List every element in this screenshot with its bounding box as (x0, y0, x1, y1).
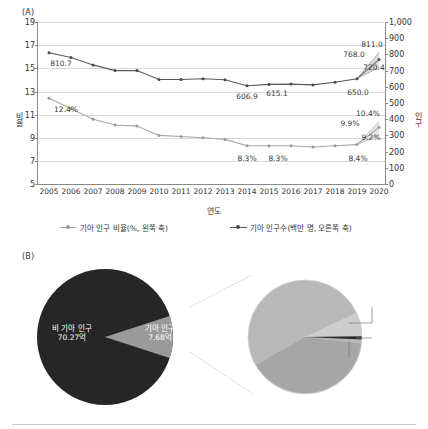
xtick-label: 2005 (39, 187, 58, 196)
xtick-label: 2012 (193, 187, 212, 196)
explosion-connector-top (190, 275, 252, 307)
legend-line-icon-ratio (60, 227, 77, 228)
data-label-count-2020-low: 720.4 (363, 63, 384, 72)
data-label-ratio-2020-mid: 9.9% (340, 119, 359, 128)
xtick-label: 2010 (149, 187, 168, 196)
explosion-connector-bottom (190, 352, 252, 393)
xtick-label: 2013 (215, 187, 234, 196)
panel-b-pie-charts: (B) 비 기아 인구 70.27억 기아 인구 7.68억 아시아 (0, 245, 428, 429)
ytick-left-label: 7 (30, 157, 35, 166)
ytick-left-label: 11 (25, 110, 35, 119)
ytick-right-label: 100 (389, 163, 404, 172)
xtick-label: 2017 (303, 187, 322, 196)
ytick-right-label: 800 (389, 50, 404, 59)
xtick-label: 2006 (61, 187, 80, 196)
data-label-count-2015: 615.1 (266, 89, 287, 98)
xtick-label: 2011 (171, 187, 190, 196)
data-label-ratio-2015: 8.3% (268, 154, 287, 163)
data-label-count-2005: 810.7 (50, 59, 71, 68)
ratio-series-line (49, 98, 379, 147)
x-axis-title: 연도 (0, 205, 428, 216)
xtick-label: 2014 (237, 187, 256, 196)
count-series-line (49, 53, 379, 86)
data-label-ratio-2020-low: 9.2% (361, 133, 380, 142)
ytick-right-label: 400 (389, 115, 404, 124)
data-label-count-2020-high: 811.0 (361, 40, 382, 49)
left-pie-label-hunger: 기아 인구 7.68억 (145, 324, 175, 343)
ytick-left-label: 9 (30, 134, 35, 143)
legend-label-count: 기아 인구수(백만 명, 오른쪽 축) (250, 222, 352, 233)
legend-label-ratio: 기아 인구 비율(%, 왼쪽 축) (80, 222, 168, 233)
ratio-series-markers (48, 97, 381, 149)
xtick-label: 2007 (83, 187, 102, 196)
ytick-right-label: 1,000 (389, 18, 412, 27)
left-pie-label-non-hunger: 비 기아 인구 70.27억 (52, 324, 92, 343)
plot-area: 19 17 15 13 11 9 7 5 1,000 900 800 700 6… (37, 22, 386, 185)
data-label-count-2020-mid: 768.0 (343, 50, 364, 59)
xtick-label: 2019 (347, 187, 366, 196)
ytick-right-label: 900 (389, 34, 404, 43)
ytick-right-label: 500 (389, 99, 404, 108)
left-pie-hunger-name: 기아 인구 (145, 324, 175, 333)
panel-a-line-chart: (A) 19 17 15 13 11 9 7 5 1,000 900 800 (0, 0, 428, 245)
data-label-count-2019: 650.0 (347, 88, 368, 97)
ytick-left-label: 19 (25, 18, 35, 27)
left-pie-non-hunger-value: 70.27억 (58, 333, 86, 342)
ytick-right-label: 200 (389, 147, 404, 156)
data-label-ratio-2019: 8.4% (348, 154, 367, 163)
chart-legend: 기아 인구 비율(%, 왼쪽 축) 기아 인구수(백만 명, 오른쪽 축) (0, 220, 428, 238)
ytick-right-label: 600 (389, 82, 404, 91)
xtick-label: 2020 (369, 187, 388, 196)
ytick-left-label: 17 (25, 41, 35, 50)
y-axis-right-title: 인구 (412, 112, 423, 126)
count-series-markers (48, 51, 381, 87)
ytick-left-label: 5 (30, 180, 35, 189)
tick-left (35, 184, 38, 185)
xtick-label: 2009 (127, 187, 146, 196)
series-canvas (38, 22, 387, 184)
y-axis-left-title: 비율 (13, 112, 24, 126)
data-label-ratio-2014: 8.3% (237, 154, 256, 163)
left-pie-non-hunger-name: 비 기아 인구 (52, 324, 92, 333)
panel-a-tag: (A) (22, 8, 34, 17)
ytick-right-label: 700 (389, 66, 404, 75)
ytick-left-label: 15 (25, 64, 35, 73)
xtick-label: 2018 (325, 187, 344, 196)
legend-line-icon-count (230, 227, 247, 228)
data-label-ratio-2005: 12.4% (54, 105, 78, 114)
tick-right (385, 184, 388, 185)
data-label-ratio-2020-high: 10.4% (356, 109, 380, 118)
left-pie-hunger-value: 7.68억 (148, 333, 172, 342)
legend-item-ratio[interactable]: 기아 인구 비율(%, 왼쪽 축) (60, 222, 168, 233)
xtick-label: 2008 (105, 187, 124, 196)
ytick-right-label: 0 (389, 180, 394, 189)
legend-item-count[interactable]: 기아 인구수(백만 명, 오른쪽 축) (230, 222, 352, 233)
xtick-label: 2016 (281, 187, 300, 196)
ytick-left-label: 13 (25, 87, 35, 96)
data-label-count-2014: 606.9 (236, 92, 257, 101)
xtick-label: 2015 (259, 187, 278, 196)
bottom-divider (12, 424, 416, 425)
ytick-right-label: 300 (389, 131, 404, 140)
